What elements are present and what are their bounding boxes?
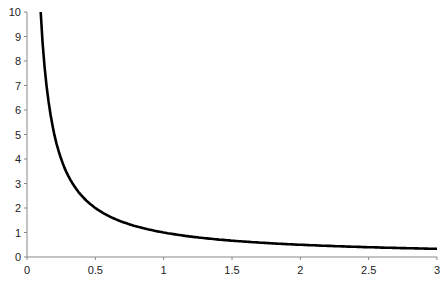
line-chart: 012345678910 00.511.522.53 xyxy=(0,0,445,286)
y-axis-ticks: 012345678910 xyxy=(9,6,27,263)
axes xyxy=(27,12,437,257)
y-tick-label: 4 xyxy=(15,153,21,165)
y-tick-label: 8 xyxy=(15,55,21,67)
y-tick-label: 10 xyxy=(9,6,21,18)
y-tick-label: 0 xyxy=(15,251,21,263)
y-tick-label: 1 xyxy=(15,227,21,239)
data-series-line xyxy=(41,12,437,249)
x-tick-label: 3 xyxy=(434,264,440,276)
x-tick-label: 1.5 xyxy=(224,264,239,276)
y-tick-label: 6 xyxy=(15,104,21,116)
y-tick-label: 7 xyxy=(15,80,21,92)
x-tick-label: 0 xyxy=(24,264,30,276)
y-tick-label: 2 xyxy=(15,202,21,214)
x-tick-label: 2.5 xyxy=(361,264,376,276)
x-tick-label: 0.5 xyxy=(88,264,103,276)
x-axis-ticks: 00.511.522.53 xyxy=(24,257,440,276)
x-tick-label: 2 xyxy=(297,264,303,276)
y-tick-label: 9 xyxy=(15,31,21,43)
x-tick-label: 1 xyxy=(161,264,167,276)
y-tick-label: 5 xyxy=(15,129,21,141)
y-tick-label: 3 xyxy=(15,178,21,190)
